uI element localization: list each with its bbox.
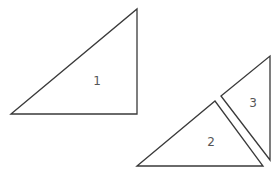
- triangle-2-shape: [137, 101, 263, 166]
- triangles-diagram: 1 2 3: [0, 0, 278, 178]
- triangle-3: 3: [221, 56, 270, 160]
- triangle-1-shape: [11, 9, 137, 114]
- triangle-3-shape: [221, 56, 270, 160]
- triangle-1: 1: [11, 9, 137, 114]
- triangle-3-label: 3: [249, 96, 257, 110]
- triangle-2: 2: [137, 101, 263, 166]
- triangle-2-label: 2: [207, 135, 215, 149]
- triangle-1-label: 1: [93, 74, 101, 88]
